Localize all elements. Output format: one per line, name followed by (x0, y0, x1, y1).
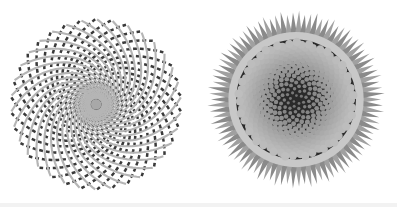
bottom-divider (0, 203, 397, 207)
sunflower-phyllotaxis-figure (197, 0, 397, 200)
spiral-lattice-figure (0, 0, 200, 200)
